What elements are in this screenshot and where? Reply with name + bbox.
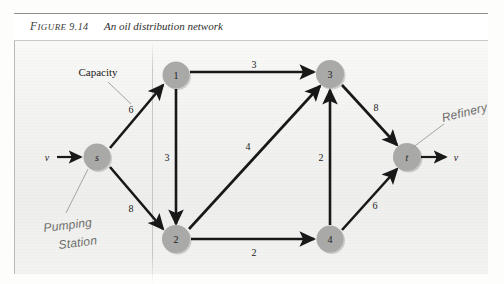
node-2-label: 2 bbox=[174, 234, 179, 245]
outflow-label-v: v bbox=[454, 152, 459, 163]
capacity-callout-label: Capacity bbox=[78, 66, 118, 78]
node-4[interactable]: 4 bbox=[317, 226, 346, 255]
edge-weight-s-2: 8 bbox=[129, 203, 134, 214]
node-3[interactable]: 3 bbox=[316, 60, 346, 90]
edge-3-t bbox=[342, 85, 397, 145]
edge-weight-1-3: 3 bbox=[252, 59, 257, 70]
edge-weight-2-4: 2 bbox=[252, 247, 257, 258]
inflow-label-v: v bbox=[45, 152, 50, 163]
edge-weight-3-t: 8 bbox=[374, 102, 379, 113]
capacity-leader-line bbox=[108, 82, 131, 104]
node-t[interactable]: t bbox=[393, 143, 423, 173]
node-3-label: 3 bbox=[328, 69, 333, 80]
edge-4-t bbox=[342, 169, 397, 230]
edge-weight-1-2: 3 bbox=[165, 152, 170, 163]
node-s[interactable]: s bbox=[84, 144, 113, 173]
edge-weight-4-t: 6 bbox=[373, 200, 378, 211]
refinery-annotation: Refinery bbox=[440, 100, 489, 125]
edge-s-2 bbox=[110, 167, 163, 229]
node-4-label: 4 bbox=[328, 234, 333, 245]
edge-2-3 bbox=[189, 86, 320, 229]
edge-weight-2-3: 4 bbox=[246, 141, 251, 152]
figure-page: FIGURE 9.14 An oil distribution network … bbox=[0, 0, 504, 284]
node-1[interactable]: 1 bbox=[163, 62, 192, 91]
pumping-station-annotation-line2: Station bbox=[58, 233, 98, 252]
pumping-station-annotation-line1: Pumping bbox=[43, 215, 93, 235]
pumping-station-leader-line bbox=[66, 169, 88, 213]
edge-weight-4-3: 2 bbox=[319, 152, 324, 163]
node-2[interactable]: 2 bbox=[162, 225, 192, 255]
handwritten-annotations: Pumping Station Refinery bbox=[43, 100, 490, 252]
edge-group bbox=[110, 72, 397, 239]
network-diagram: v v 6 8 3 3 4 2 2 8 6 s 1 bbox=[0, 0, 504, 284]
node-t-label: t bbox=[406, 152, 409, 163]
node-1-label: 1 bbox=[174, 70, 179, 81]
capacity-callout: Capacity bbox=[78, 66, 131, 104]
edge-weight-s-1: 6 bbox=[129, 104, 134, 115]
refinery-leader-line bbox=[412, 124, 444, 148]
edge-s-1 bbox=[110, 85, 163, 148]
node-s-label: s bbox=[95, 152, 99, 163]
